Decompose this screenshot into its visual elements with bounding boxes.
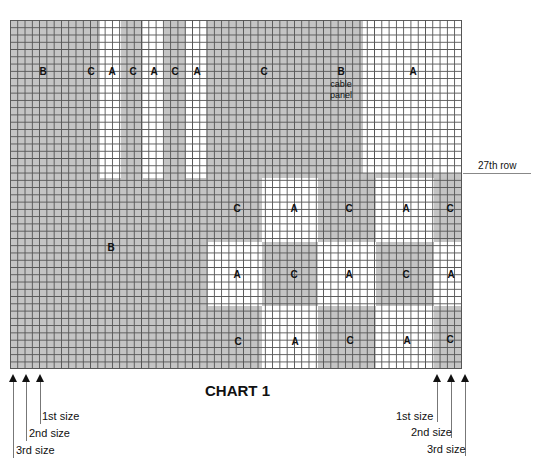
arrow-up-icon [437, 376, 438, 422]
label-a: A [150, 67, 157, 77]
label-c: C [171, 67, 178, 77]
checker-label: C [446, 204, 453, 214]
arrow-up-icon [40, 376, 41, 424]
checker-label: C [233, 204, 240, 214]
checker-label: C [234, 337, 241, 347]
stripe-a-3 [186, 20, 206, 178]
stripe-a-1 [100, 20, 121, 178]
left-size-3: 3rd size [16, 444, 55, 456]
chart-title: CHART 1 [205, 382, 270, 399]
label-c: C [260, 67, 267, 77]
label-a: A [108, 67, 115, 77]
right-size-2: 2nd size [411, 426, 452, 438]
checker-label: C [346, 336, 353, 346]
checker-label: A [447, 270, 454, 280]
chart-grid [10, 20, 462, 369]
label-b-lower: B [107, 243, 114, 253]
left-size-2: 2nd size [29, 427, 70, 439]
arrow-up-icon [26, 376, 27, 441]
right-size-3: 3rd size [427, 443, 466, 455]
checker-label: A [345, 270, 352, 280]
checker-label: A [233, 270, 240, 280]
left-size-1: 1st size [42, 410, 79, 422]
row-marker-line [463, 173, 531, 174]
checker-label: C [345, 204, 352, 214]
checker-label: C [446, 335, 453, 345]
arrow-up-icon [13, 376, 14, 458]
label-a: A [409, 67, 416, 77]
label-b: B [39, 67, 46, 77]
row-marker-label: 27th row [478, 160, 516, 171]
right-size-1: 1st size [396, 410, 433, 422]
label-c: C [129, 67, 136, 77]
checker-a [262, 306, 318, 369]
region-a-right [363, 20, 462, 173]
label-c: C [87, 67, 94, 77]
checker-label: C [402, 270, 409, 280]
checker-label: A [403, 336, 410, 346]
label-a: A [193, 67, 200, 77]
stripe-a-2 [143, 20, 164, 178]
checker-label: A [402, 204, 409, 214]
checker-label: C [290, 270, 297, 280]
cable-panel-label: cable panel [324, 79, 358, 101]
checker-label: A [290, 204, 297, 214]
label-b-cable: B [337, 67, 344, 77]
checker-label: A [291, 337, 298, 347]
